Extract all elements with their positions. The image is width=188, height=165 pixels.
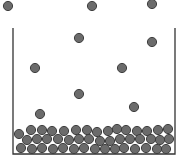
settled-particle xyxy=(141,143,150,152)
particle-diagram xyxy=(0,0,188,165)
settled-particle xyxy=(125,134,134,143)
settled-particle xyxy=(105,136,114,145)
settled-particle xyxy=(146,134,155,143)
settled-particle xyxy=(135,134,144,143)
settled-particle xyxy=(84,134,93,143)
settled-particle xyxy=(161,144,170,153)
settled-particles xyxy=(14,124,173,153)
settled-particle xyxy=(119,143,128,152)
free-particle xyxy=(129,102,138,111)
settled-particle xyxy=(37,143,46,152)
settled-particle xyxy=(82,125,91,134)
settled-particle xyxy=(130,144,139,153)
free-particle xyxy=(147,0,156,9)
settled-particle xyxy=(110,144,119,153)
settled-particle xyxy=(90,144,99,153)
settled-particle xyxy=(103,126,112,135)
settled-particle xyxy=(153,125,162,134)
settled-particle xyxy=(95,136,104,145)
settled-particle xyxy=(27,144,36,153)
settled-particle xyxy=(42,134,51,143)
settled-particle xyxy=(58,143,67,152)
free-particles xyxy=(3,0,156,119)
settled-particle xyxy=(71,125,80,134)
settled-particle xyxy=(112,124,121,133)
settled-particle xyxy=(164,134,173,143)
settled-particle xyxy=(69,144,78,153)
settled-particle xyxy=(152,144,161,153)
settled-particle xyxy=(53,134,62,143)
free-particle xyxy=(74,89,83,98)
free-particle xyxy=(74,33,83,42)
settled-particle xyxy=(155,135,164,144)
settled-particle xyxy=(92,127,101,136)
settled-particle xyxy=(48,144,57,153)
free-particle xyxy=(3,1,12,10)
settled-particle xyxy=(59,126,68,135)
free-particle xyxy=(35,109,44,118)
settled-particle xyxy=(115,134,124,143)
settled-particle xyxy=(64,135,73,144)
settled-particle xyxy=(32,134,41,143)
settled-particle xyxy=(79,143,88,152)
diagram-canvas xyxy=(0,0,188,165)
settled-particle xyxy=(37,125,46,134)
settled-particle xyxy=(100,144,109,153)
free-particle xyxy=(117,63,126,72)
settled-particle xyxy=(47,126,56,135)
settled-particle xyxy=(16,143,25,152)
settled-particle xyxy=(14,129,23,138)
settled-particle xyxy=(74,134,83,143)
settled-particle xyxy=(22,135,31,144)
free-particle xyxy=(30,63,39,72)
settled-particle xyxy=(121,125,130,134)
settled-particle xyxy=(163,124,172,133)
free-particle xyxy=(147,37,156,46)
settled-particle xyxy=(26,125,35,134)
free-particle xyxy=(87,1,96,10)
